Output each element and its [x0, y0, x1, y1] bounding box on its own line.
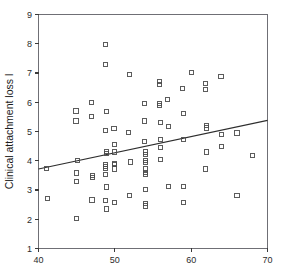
y-tick-label: 9	[27, 10, 32, 20]
data-point-marker	[220, 145, 224, 149]
data-point-marker	[104, 185, 108, 189]
data-point-marker	[104, 129, 108, 133]
y-tick-label: 5	[27, 127, 32, 137]
data-point-marker	[159, 146, 163, 150]
data-point-marker	[204, 82, 208, 86]
data-point-marker	[127, 72, 131, 76]
data-point-marker	[143, 201, 147, 205]
data-point-marker	[204, 167, 208, 171]
data-point-marker	[143, 187, 147, 191]
data-point-marker	[113, 167, 117, 171]
data-point-marker	[204, 150, 208, 154]
y-tick-label: 6	[27, 98, 32, 108]
data-point-marker	[104, 173, 108, 177]
data-point-marker	[126, 130, 130, 134]
data-point-marker	[89, 100, 93, 104]
data-point-marker	[166, 184, 170, 188]
data-point-marker	[235, 194, 239, 198]
y-axis-title: Clinical attachment loss l	[3, 74, 15, 190]
y-tick-label: 7	[27, 68, 32, 78]
data-point-marker	[75, 217, 79, 221]
data-point-marker	[113, 200, 117, 204]
chart-canvas: 12345678940506070Clinical attachment los…	[0, 0, 284, 276]
data-point-marker	[74, 119, 78, 123]
data-point-marker	[143, 119, 147, 123]
y-tick-label: 2	[27, 215, 32, 225]
data-point-marker	[113, 142, 117, 146]
y-tick-label: 3	[27, 185, 32, 195]
data-point-marker	[143, 204, 147, 208]
data-point-marker	[250, 153, 254, 157]
data-point-marker	[75, 179, 79, 183]
data-point-marker	[165, 97, 169, 101]
y-tick-label: 1	[27, 244, 32, 254]
y-tick-label: 8	[27, 39, 32, 49]
x-tick-label: 50	[110, 255, 120, 265]
data-point-marker	[220, 132, 224, 136]
data-point-marker	[113, 163, 117, 167]
data-point-marker	[181, 184, 185, 188]
data-point-marker	[158, 79, 162, 83]
regression-trendline	[39, 120, 268, 169]
data-point-marker	[181, 86, 185, 90]
data-point-marker	[104, 199, 108, 203]
x-tick-label: 70	[262, 255, 272, 265]
data-point-marker	[74, 109, 78, 113]
data-point-marker	[75, 171, 79, 175]
data-point-marker	[46, 197, 50, 201]
data-point-marker	[158, 82, 162, 86]
data-point-marker	[159, 157, 163, 161]
data-point-marker	[181, 111, 185, 115]
data-point-marker	[128, 160, 132, 164]
data-point-marker	[113, 162, 117, 166]
data-point-marker	[127, 193, 131, 197]
data-point-marker	[89, 115, 93, 119]
data-point-marker	[112, 127, 116, 131]
data-point-marker	[189, 71, 193, 75]
data-point-marker	[204, 88, 208, 92]
data-point-marker	[181, 200, 185, 204]
data-point-marker	[159, 120, 163, 124]
data-point-marker	[104, 42, 108, 46]
data-point-marker	[104, 109, 108, 113]
x-tick-label: 60	[186, 255, 196, 265]
y-tick-label: 4	[27, 156, 32, 166]
data-point-marker	[143, 102, 147, 106]
scatter-plot-figure: 12345678940506070Clinical attachment los…	[0, 0, 284, 276]
data-point-marker	[104, 207, 108, 211]
data-point-marker	[104, 63, 108, 67]
data-point-marker	[90, 198, 94, 202]
data-point-marker	[143, 139, 147, 143]
data-point-marker	[159, 138, 163, 142]
data-point-marker	[166, 124, 170, 128]
data-point-marker	[235, 131, 239, 135]
x-tick-label: 40	[33, 255, 43, 265]
data-point-marker	[219, 75, 223, 79]
